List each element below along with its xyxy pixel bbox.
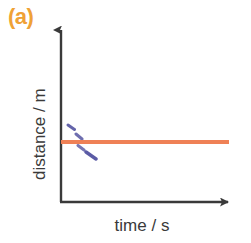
- x-axis-label: time / s: [115, 216, 170, 235]
- y-axis-label: distance / m: [30, 88, 49, 180]
- sketch-dash-3: [78, 146, 84, 151]
- distance-time-plot: time / s distance / m: [0, 0, 251, 243]
- sketch-dash-1: [68, 125, 75, 130]
- sketch-dash-4: [86, 152, 96, 159]
- sketch-dash-2: [76, 134, 82, 139]
- figure-panel: (a) time / s distance / m: [0, 0, 251, 243]
